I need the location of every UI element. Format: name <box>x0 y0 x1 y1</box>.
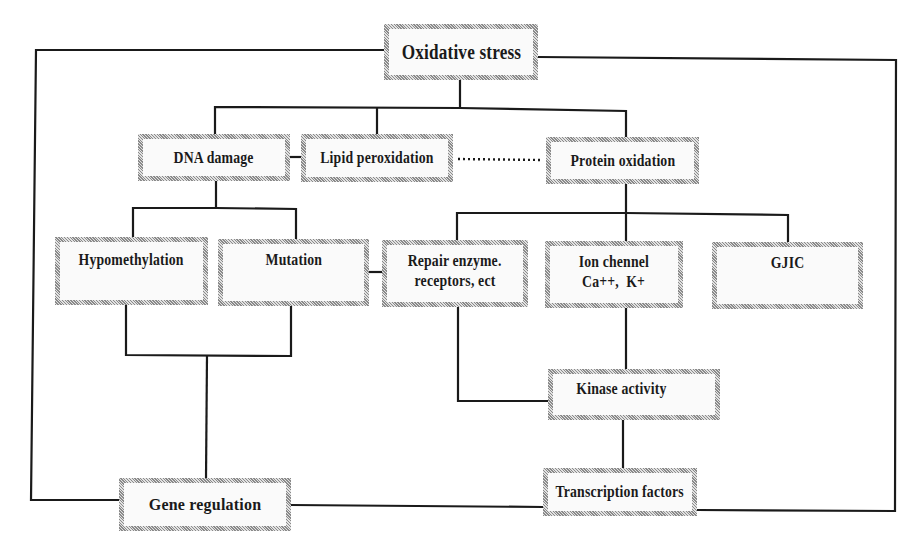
edge-protein-branch <box>457 184 626 240</box>
node-label: Gene regulation <box>149 495 261 515</box>
edge-to-gene-regulation <box>126 305 291 356</box>
node-gjic: GJIC <box>712 242 863 309</box>
node-label: DNA damage <box>174 148 254 168</box>
node-label: Kinase activity <box>576 379 666 399</box>
node-label-line2: receptors, ect <box>415 271 496 291</box>
node-label: Lipid peroxidation <box>320 148 433 168</box>
node-mutation: Mutation <box>218 239 369 306</box>
node-transcription-factors: Transcription factors <box>543 468 697 516</box>
node-label: Mutation <box>265 250 321 270</box>
node-label-line1: Ion chennel <box>579 252 649 272</box>
node-protein-oxidation: Protein oxidation <box>546 137 699 184</box>
edge-repair-to-kinase <box>458 307 548 401</box>
node-lipid-peroxidation: Lipid peroxidation <box>301 134 453 182</box>
node-label: Transcription factors <box>556 482 684 502</box>
node-ion-channel: Ion chennel Ca++, K+ <box>545 241 683 308</box>
node-kinase-activity: Kinase activity <box>548 369 720 420</box>
node-label: Hypomethylation <box>79 250 184 270</box>
node-label: Oxidative stress <box>401 40 520 65</box>
edge-oxidative-bus <box>215 80 460 134</box>
node-dna-damage: DNA damage <box>138 134 290 181</box>
node-label: GJIC <box>771 253 805 273</box>
node-label-line2: Ca++, K+ <box>583 272 646 292</box>
edge-dna-branch <box>133 181 216 237</box>
node-gene-regulation: Gene regulation <box>119 478 291 531</box>
oxidative-stress-diagram: Oxidative stress DNA damage Lipid peroxi… <box>0 0 919 556</box>
node-label: Protein oxidation <box>570 151 675 171</box>
node-label-line1: Repair enzyme. <box>408 251 502 271</box>
node-hypomethylation: Hypomethylation <box>55 237 208 305</box>
node-oxidative-stress: Oxidative stress <box>384 24 538 80</box>
edge-gene-to-transcription <box>291 505 543 507</box>
node-repair-enzyme: Repair enzyme. receptors, ect <box>382 240 528 307</box>
edge-lipid-to-protein-dotted <box>458 159 542 160</box>
